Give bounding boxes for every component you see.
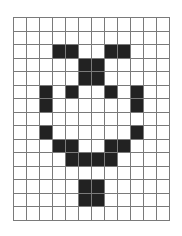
grid-cell-empty: [26, 166, 39, 180]
grid-cell-empty: [117, 112, 130, 126]
grid-cell-empty: [91, 85, 104, 99]
grid-cell-filled: [117, 139, 130, 153]
grid-cell-empty: [143, 139, 156, 153]
grid-cell-empty: [78, 125, 91, 139]
grid-cell-empty: [117, 206, 130, 220]
grid-cell-empty: [143, 206, 156, 220]
grid-cell-empty: [104, 193, 117, 207]
grid-cell-empty: [130, 112, 143, 126]
grid-cell-empty: [117, 166, 130, 180]
grid-cell-empty: [130, 71, 143, 85]
grid-cell-filled: [65, 44, 78, 58]
grid-cell-empty: [104, 98, 117, 112]
grid-cell-filled: [104, 85, 117, 99]
grid-cell-empty: [130, 17, 143, 31]
grid-cell-filled: [65, 139, 78, 153]
grid-cell-empty: [130, 44, 143, 58]
grid-cell-empty: [26, 17, 39, 31]
grid-cell-empty: [104, 166, 117, 180]
grid-cell-filled: [91, 179, 104, 193]
grid-cell-empty: [26, 179, 39, 193]
grid-cell-filled: [104, 139, 117, 153]
grid-cell-empty: [156, 98, 169, 112]
grid-cell-empty: [156, 152, 169, 166]
grid-cell-empty: [26, 193, 39, 207]
grid-cell-filled: [78, 58, 91, 72]
grid-cell-empty: [52, 193, 65, 207]
grid-cell-empty: [117, 85, 130, 99]
grid-cell-empty: [65, 179, 78, 193]
grid-cell-empty: [26, 206, 39, 220]
grid-cell-empty: [104, 58, 117, 72]
grid-cell-empty: [143, 193, 156, 207]
grid-cell-empty: [13, 112, 26, 126]
grid-cell-empty: [130, 31, 143, 45]
grid-cell-filled: [52, 44, 65, 58]
grid-cell-empty: [52, 179, 65, 193]
grid-cell-empty: [78, 85, 91, 99]
grid-cell-empty: [52, 206, 65, 220]
grid-cell-empty: [143, 31, 156, 45]
grid-cell-empty: [26, 139, 39, 153]
grid-cell-empty: [143, 125, 156, 139]
grid-cell-empty: [143, 44, 156, 58]
grid-cell-empty: [78, 17, 91, 31]
grid-cell-empty: [156, 179, 169, 193]
grid-cell-empty: [26, 152, 39, 166]
grid-cell-empty: [39, 44, 52, 58]
grid-cell-empty: [91, 112, 104, 126]
grid-cell-filled: [130, 98, 143, 112]
grid-cell-empty: [156, 166, 169, 180]
grid-cell-empty: [130, 139, 143, 153]
grid-cell-empty: [26, 112, 39, 126]
grid-cell-empty: [65, 166, 78, 180]
grid-cell-empty: [156, 206, 169, 220]
grid-cell-empty: [91, 125, 104, 139]
grid-cell-empty: [78, 98, 91, 112]
grid-cell-empty: [156, 58, 169, 72]
grid-cell-empty: [91, 166, 104, 180]
grid-cell-empty: [39, 139, 52, 153]
grid-cell-empty: [52, 152, 65, 166]
grid-cell-empty: [65, 31, 78, 45]
grid-cell-filled: [65, 152, 78, 166]
grid-cell-empty: [13, 166, 26, 180]
grid-cell-filled: [91, 152, 104, 166]
grid-cell-empty: [39, 179, 52, 193]
grid-cell-empty: [13, 71, 26, 85]
grid-cell-filled: [104, 152, 117, 166]
grid-cell-empty: [65, 58, 78, 72]
grid-cell-empty: [91, 206, 104, 220]
grid-cell-filled: [91, 71, 104, 85]
grid-cell-empty: [65, 206, 78, 220]
grid-cell-empty: [104, 71, 117, 85]
grid-cell-filled: [65, 85, 78, 99]
grid-cell-empty: [78, 44, 91, 58]
grid-cell-empty: [52, 112, 65, 126]
grid-cell-empty: [13, 193, 26, 207]
grid-cell-empty: [65, 112, 78, 126]
grid-cell-empty: [130, 58, 143, 72]
grid-cell-filled: [78, 193, 91, 207]
grid-cell-filled: [78, 179, 91, 193]
grid-cell-empty: [78, 166, 91, 180]
grid-cell-filled: [39, 125, 52, 139]
grid-cell-empty: [104, 31, 117, 45]
grid-cell-empty: [117, 152, 130, 166]
grid-cell-empty: [156, 17, 169, 31]
grid-cell-empty: [65, 98, 78, 112]
grid-cell-empty: [26, 31, 39, 45]
grid-cell-empty: [156, 44, 169, 58]
grid-cell-filled: [52, 139, 65, 153]
grid-cell-empty: [13, 152, 26, 166]
grid-cell-empty: [78, 206, 91, 220]
grid-cell-empty: [26, 85, 39, 99]
pixel-grid: [13, 17, 170, 221]
grid-cell-empty: [117, 71, 130, 85]
grid-cell-empty: [91, 17, 104, 31]
grid-cell-empty: [52, 31, 65, 45]
grid-cell-empty: [104, 112, 117, 126]
grid-cell-empty: [143, 112, 156, 126]
grid-cell-empty: [26, 58, 39, 72]
grid-cell-empty: [65, 125, 78, 139]
